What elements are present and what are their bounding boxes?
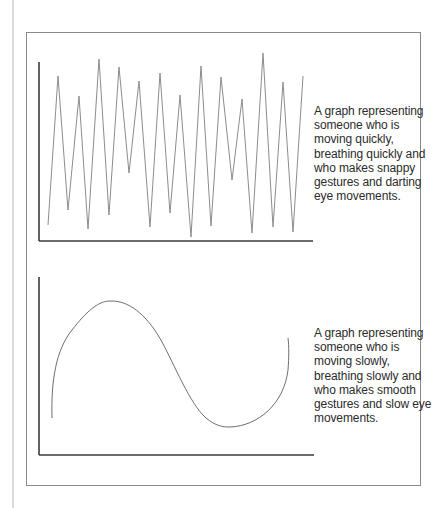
quick-graph-caption: A graph representing someone who is movi…: [314, 104, 439, 203]
slow-graph-caption: A graph representing someone who is movi…: [314, 326, 439, 425]
quick-zigzag-line: [48, 53, 303, 237]
graphs-canvas: [0, 0, 445, 508]
quick-graph: [39, 53, 313, 241]
slow-wave-line: [52, 301, 289, 427]
slow-graph: [39, 277, 314, 455]
